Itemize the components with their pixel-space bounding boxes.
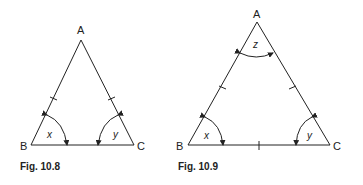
tick-mark-ac — [289, 86, 296, 89]
vertex-c-label: C — [333, 140, 341, 152]
angle-x-label: x — [46, 129, 53, 140]
vertex-c-label: C — [137, 140, 145, 152]
figure-caption: Fig. 10.9 — [178, 161, 218, 172]
angle-arc-a — [240, 53, 273, 57]
angle-y-label: y — [112, 129, 119, 140]
angle-x-label: x — [203, 130, 210, 141]
equilateral-triangle — [188, 22, 330, 145]
vertex-a-label: A — [253, 8, 261, 20]
angle-y-label: y — [306, 130, 313, 141]
figure-10-8: A B C x y Fig. 10.8 — [20, 24, 145, 172]
vertex-b-label: B — [176, 140, 183, 152]
figures-canvas: A B C x y Fig. 10.8 A B C z x y Fig. 10.… — [0, 0, 363, 185]
vertex-a-label: A — [77, 24, 85, 36]
vertex-b-label: B — [20, 140, 27, 152]
figure-10-9: A B C z x y Fig. 10.9 — [176, 8, 341, 172]
angle-z-label: z — [252, 39, 258, 50]
figure-caption: Fig. 10.8 — [20, 161, 60, 172]
